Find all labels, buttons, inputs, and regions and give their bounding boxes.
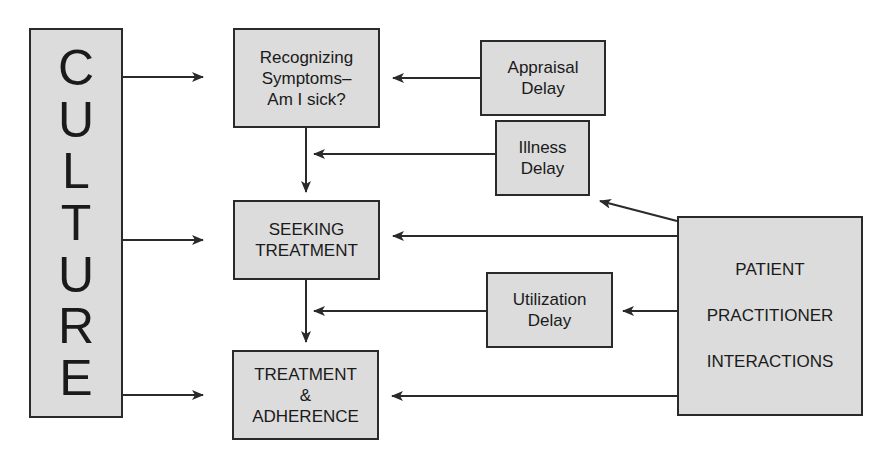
culture-box: C U L T U R E bbox=[29, 28, 123, 418]
arrow-interactions-to-illness bbox=[600, 201, 677, 221]
box-label: Delay bbox=[521, 158, 564, 179]
box-label: Utilization bbox=[513, 289, 587, 310]
box-label: TREATMENT bbox=[254, 364, 357, 385]
treatment-adherence-box: TREATMENT & ADHERENCE bbox=[232, 350, 379, 440]
box-label: Delay bbox=[528, 310, 571, 331]
culture-letter: E bbox=[59, 353, 92, 403]
appraisal-delay-box: Appraisal Delay bbox=[480, 40, 606, 116]
recognizing-symptoms-box: Recognizing Symptoms– Am I sick? bbox=[233, 28, 380, 128]
illness-delay-box: Illness Delay bbox=[495, 120, 590, 196]
box-label: PATIENT bbox=[735, 247, 804, 293]
culture-letter: R bbox=[58, 301, 94, 351]
culture-letter: U bbox=[58, 250, 94, 300]
box-label: Illness bbox=[518, 137, 566, 158]
box-label: PRACTITIONER bbox=[707, 293, 834, 339]
utilization-delay-box: Utilization Delay bbox=[486, 272, 613, 348]
seeking-treatment-box: SEEKING TREATMENT bbox=[233, 200, 380, 280]
box-label: Appraisal bbox=[508, 57, 579, 78]
culture-letter: U bbox=[58, 95, 94, 145]
box-label: SEEKING bbox=[269, 219, 345, 240]
culture-letter: L bbox=[62, 146, 90, 196]
box-label: ADHERENCE bbox=[252, 406, 359, 427]
box-label: Delay bbox=[521, 78, 564, 99]
box-label: TREATMENT bbox=[255, 240, 358, 261]
box-label: Recognizing bbox=[260, 47, 354, 68]
culture-letter: T bbox=[61, 198, 92, 248]
box-label: & bbox=[300, 385, 311, 406]
box-label: Am I sick? bbox=[267, 89, 345, 110]
box-label: INTERACTIONS bbox=[707, 339, 834, 385]
culture-letter: C bbox=[58, 43, 94, 93]
box-label: Symptoms– bbox=[262, 68, 352, 89]
patient-practitioner-interactions-box: PATIENT PRACTITIONER INTERACTIONS bbox=[677, 216, 863, 416]
